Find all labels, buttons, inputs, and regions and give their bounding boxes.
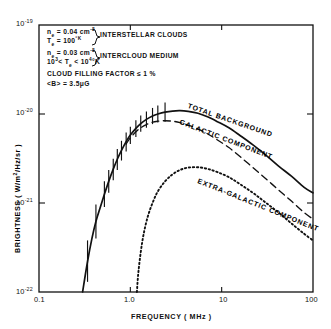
x-tick-label-1: 1.0 <box>124 295 135 304</box>
y-axis-title-sup: 2 <box>12 172 18 175</box>
annotation-brace-label-intercloud: INTERCLOUD MEDIUM <box>100 52 179 59</box>
y-tick-label-3: 10-22 <box>16 286 33 296</box>
x-tick-label-0: 0.1 <box>34 295 45 304</box>
x-axis-title: FREQUENCY ( MHz ) <box>131 312 212 321</box>
annotation-cloud-filling-factor: CLOUD FILLING FACTOR ≤ 1 % <box>47 70 156 77</box>
annotation-magnetic-field: <B> = 3.5μG <box>47 80 90 87</box>
x-tick-label-2: 10 <box>219 295 228 304</box>
x-tick-label-3: 100 <box>305 295 318 304</box>
y-axis-title-post: /Hz/sr ) <box>13 144 22 172</box>
y-axis-title-pre: BRIGHTNESS ( W/m <box>13 176 22 253</box>
y-tick-label-0: 10-19 <box>16 18 33 28</box>
annotation-brace-label-clouds: INTERSTELLAR CLOUDS <box>100 31 188 38</box>
y-tick-label-2: 10-21 <box>16 197 33 207</box>
annotation-line-te-intercloud: 103< Te < 104°K <box>47 57 100 68</box>
y-tick-label-1: 10-20 <box>16 107 33 117</box>
annotation-line-te-clouds: Te = 100°K <box>47 36 81 47</box>
